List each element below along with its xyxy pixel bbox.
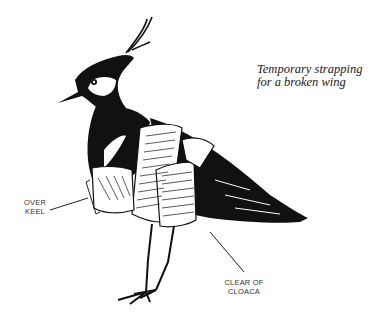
legs — [118, 224, 174, 304]
clear-of-cloaca-line2: CLOACA — [222, 287, 266, 296]
clear-of-cloaca-label: CLEAR OF CLOACA — [222, 278, 266, 296]
clear-of-cloaca-line1: CLEAR OF — [222, 278, 266, 287]
over-keel-line1: OVER — [22, 198, 48, 207]
caption: Temporary strapping for a broken wing — [257, 63, 375, 89]
over-keel-label: OVER KEEL — [22, 198, 48, 216]
over-keel-line2: KEEL — [22, 207, 48, 216]
cloaca-pointer — [210, 232, 244, 272]
bird-illustration — [0, 0, 375, 324]
crest — [126, 17, 152, 53]
